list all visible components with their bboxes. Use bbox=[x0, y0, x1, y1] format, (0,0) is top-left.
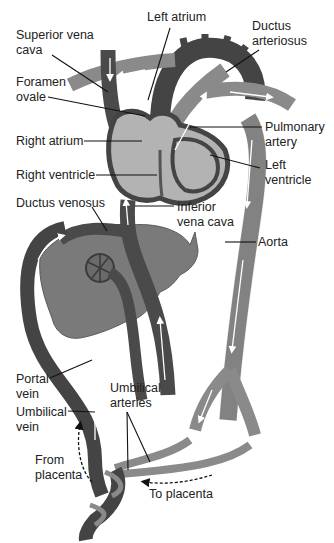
label-pulmonary-artery: Pulmonary artery bbox=[265, 120, 325, 149]
umbilical-arteries bbox=[115, 440, 250, 474]
label-left-atrium: Left atrium bbox=[147, 10, 206, 25]
label-aorta: Aorta bbox=[258, 235, 288, 250]
label-ductus-venosus: Ductus venosus bbox=[16, 196, 105, 211]
label-foramen-ovale: Foramen ovale bbox=[16, 75, 66, 104]
label-right-atrium: Right atrium bbox=[16, 134, 83, 149]
label-from-placenta: From placenta bbox=[35, 453, 82, 482]
label-umbilical-vein: Umbilical vein bbox=[16, 405, 67, 434]
label-inferior-vena-cava: Inferior vena cava bbox=[177, 200, 234, 229]
superior-vena-cava bbox=[108, 50, 116, 125]
label-superior-vena-cava: Superior vena cava bbox=[16, 28, 94, 57]
label-right-ventricle: Right ventricle bbox=[16, 168, 95, 183]
label-ductus-arteriosus: Ductus arteriosus bbox=[252, 19, 307, 48]
to-placenta-arrow bbox=[145, 475, 212, 483]
label-to-placenta: To placenta bbox=[149, 487, 213, 502]
label-umbilical-arteries: Umbilical arteries bbox=[110, 381, 161, 410]
label-portal-vein: Portal vein bbox=[16, 372, 49, 401]
label-left-ventricle: Left ventricle bbox=[265, 158, 312, 187]
